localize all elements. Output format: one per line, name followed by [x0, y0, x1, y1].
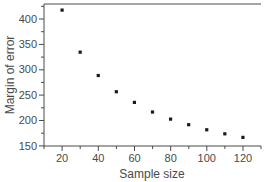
x-tick-label: 20: [56, 152, 68, 164]
data-point: [133, 101, 136, 104]
data-point: [97, 74, 100, 77]
data-point: [169, 118, 172, 121]
y-tick-label: 350: [19, 38, 37, 50]
data-point: [115, 90, 118, 93]
x-tick-label: 40: [92, 152, 104, 164]
x-tick-label: 100: [198, 152, 216, 164]
x-tick-label: 120: [234, 152, 252, 164]
scatter-chart: 150 200 250 300 350 400 20 40 60 80 100 …: [0, 0, 265, 182]
chart-canvas: 150 200 250 300 350 400 20 40 60 80 100 …: [0, 0, 265, 182]
data-point: [241, 136, 244, 139]
plot-area-background: [44, 4, 261, 146]
x-tick-label: 60: [128, 152, 140, 164]
x-tick-label: 80: [165, 152, 177, 164]
y-tick-label: 150: [19, 140, 37, 152]
data-point: [60, 8, 63, 11]
data-point: [187, 123, 190, 126]
y-axis-tick-labels: 150 200 250 300 350 400: [19, 13, 37, 152]
data-point: [79, 51, 82, 54]
y-tick-label: 400: [19, 13, 37, 25]
y-tick-label: 200: [19, 114, 37, 126]
data-point: [151, 110, 154, 113]
y-tick-label: 300: [19, 63, 37, 75]
y-axis-title: Margin of error: [3, 36, 17, 115]
data-point: [223, 132, 226, 135]
x-axis-title: Sample size: [119, 167, 185, 181]
data-point: [205, 128, 208, 131]
x-axis-tick-labels: 20 40 60 80 100 120: [56, 152, 252, 164]
y-tick-label: 250: [19, 89, 37, 101]
